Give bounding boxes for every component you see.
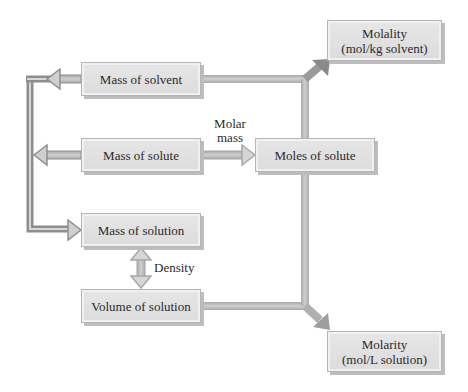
node-molality: Molality (mol/kg solvent): [327, 20, 442, 61]
node-mass-of-solution: Mass of solution: [81, 213, 201, 247]
edge-label-line: mass: [208, 131, 252, 145]
node-label: Mass of solution: [98, 223, 185, 238]
edge-label-molar-mass: Molar mass: [208, 117, 252, 145]
node-subtitle: (mol/kg solvent): [341, 41, 427, 56]
solvent-to-bus-arrow: [47, 69, 81, 89]
node-volume-of-solution: Volume of solution: [81, 289, 201, 323]
molar-mass-arrow: [202, 145, 255, 165]
node-title: Molality: [362, 26, 407, 41]
node-mass-of-solvent: Mass of solvent: [81, 62, 201, 96]
node-moles-of-solute: Moles of solute: [255, 138, 375, 172]
concentration-conversion-diagram: Mass of solvent Mass of solute Mass of s…: [0, 0, 468, 392]
node-label: Volume of solution: [91, 299, 190, 314]
node-label: Moles of solute: [275, 148, 356, 163]
node-label: Mass of solute: [103, 148, 179, 163]
right-trunk-connector: [202, 59, 330, 330]
node-subtitle: (mol/L solution): [342, 352, 427, 367]
edge-label-line: Molar: [208, 117, 252, 131]
edge-label-density: Density: [154, 261, 194, 275]
node-mass-of-solute: Mass of solute: [81, 138, 201, 172]
node-title: Molarity: [362, 337, 408, 352]
node-label: Mass of solvent: [100, 72, 182, 87]
solute-to-bus-arrow: [34, 145, 81, 165]
node-molarity: Molarity (mol/L solution): [327, 331, 442, 372]
density-double-arrow: [131, 248, 151, 288]
